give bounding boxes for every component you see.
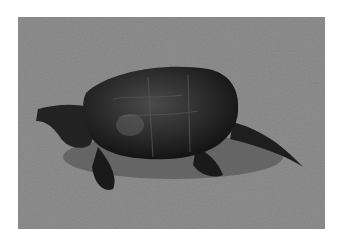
turtle-illustration [18, 17, 325, 229]
shell-highlight [116, 114, 144, 136]
turtle-photo [18, 17, 325, 229]
turtle-shell [83, 67, 238, 159]
